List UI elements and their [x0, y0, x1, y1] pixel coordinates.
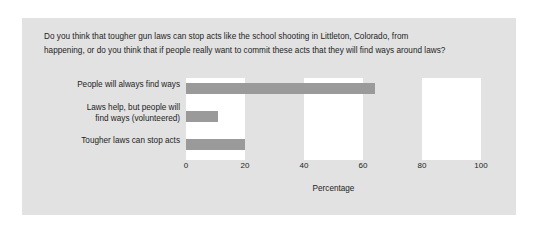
x-tick-100: 100: [474, 161, 487, 170]
bar-laws-help-but-people-will-find-ways: [186, 111, 218, 122]
category-label-2-line-1: Tougher laws can stop acts: [30, 135, 180, 146]
chart-figure: Do you think that tougher gun laws can s…: [22, 18, 516, 215]
x-tick-40: 40: [300, 161, 309, 170]
x-tick-0: 0: [184, 161, 188, 170]
category-label-1: Laws help, but people will find ways (vo…: [30, 102, 180, 124]
x-tick-60: 60: [359, 161, 368, 170]
category-label-2: Tougher laws can stop acts: [30, 135, 180, 146]
x-axis-title: Percentage: [186, 184, 481, 193]
category-label-1-line-1: Laws help, but people will: [30, 102, 180, 113]
category-label-0: People will always find ways: [30, 79, 180, 90]
x-axis-ticks: 0 20 40 60 80 100: [186, 161, 481, 175]
category-label-1-line-2: find ways (volunteered): [30, 113, 180, 124]
category-label-0-line-1: People will always find ways: [30, 79, 180, 90]
x-tick-20: 20: [241, 161, 250, 170]
plot-area: People will always find ways Laws help, …: [22, 18, 516, 215]
x-tick-80: 80: [418, 161, 427, 170]
bar-tougher-laws-can-stop-acts: [186, 139, 245, 150]
bar-people-will-always-find-ways: [186, 83, 375, 94]
bar-group: [186, 78, 481, 160]
